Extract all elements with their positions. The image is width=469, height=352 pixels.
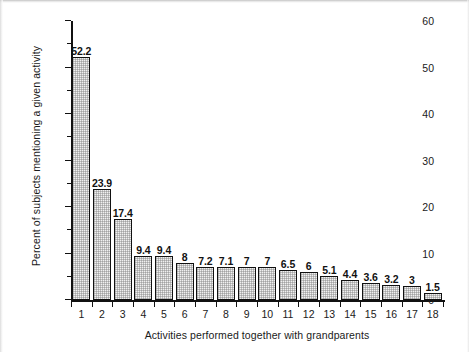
bar: 52.2: [72, 57, 90, 300]
bar: 6.5: [279, 270, 297, 300]
chart-figure: Percent of subjects mentioning a given a…: [0, 0, 469, 352]
bar: 8: [176, 263, 194, 300]
bar-value-label: 9.4: [157, 244, 171, 256]
y-axis-tick: [65, 206, 71, 207]
scan-edge-top: [0, 0, 469, 3]
bar: 5.1: [320, 276, 338, 300]
x-axis-tick-label: 7: [202, 308, 208, 320]
y-axis-tick-label: 60: [422, 15, 434, 27]
y-axis-tick: [65, 113, 71, 114]
x-axis-title: Activities performed together with grand…: [62, 329, 452, 341]
bar: 23.9: [93, 189, 111, 300]
x-axis-tick-label: 13: [323, 308, 335, 320]
y-axis-minor-tick: [67, 229, 71, 230]
x-axis-tick-label: 9: [244, 308, 250, 320]
x-axis-tick-label: 4: [140, 308, 146, 320]
bar: 4.4: [341, 280, 359, 300]
x-axis-tick: [298, 300, 299, 307]
bar-value-label: 1.5: [426, 281, 440, 293]
bar: 7: [258, 267, 276, 300]
bar: 1.5: [424, 293, 442, 300]
bar-value-label: 23.9: [92, 177, 112, 189]
x-axis-tick-label: 5: [161, 308, 167, 320]
x-axis-tick: [112, 300, 113, 307]
bar-value-label: 17.4: [113, 207, 133, 219]
x-axis-tick: [71, 300, 72, 307]
bar: 3.6: [362, 283, 380, 300]
bar: 3: [403, 286, 421, 300]
x-axis-tick: [154, 300, 155, 307]
x-axis-tick: [195, 300, 196, 307]
x-axis-tick: [319, 300, 320, 307]
y-axis-minor-tick: [67, 276, 71, 277]
y-axis-tick-label: 40: [422, 108, 434, 120]
bar: 7.1: [217, 267, 235, 300]
y-axis-tick-label: 30: [422, 155, 434, 167]
scan-edge-left: [0, 0, 3, 352]
x-axis-tick-label: 17: [406, 308, 418, 320]
y-axis-minor-tick: [67, 136, 71, 137]
bar: 6: [300, 272, 318, 300]
x-axis-tick-label: 1: [78, 308, 84, 320]
x-axis-tick: [381, 300, 382, 307]
x-axis-tick-label: 11: [283, 308, 294, 320]
bar-value-label: 8: [182, 251, 188, 263]
y-axis-minor-tick: [67, 90, 71, 91]
x-axis-tick: [278, 300, 279, 307]
y-axis-tick: [65, 253, 71, 254]
bar-value-label: 7.1: [219, 255, 233, 267]
bar-value-label: 3.6: [364, 271, 378, 283]
bar-value-label: 4.4: [343, 268, 357, 280]
x-axis-tick-label: 18: [427, 308, 439, 320]
x-axis-tick: [443, 300, 444, 307]
y-axis-tick-label: 20: [422, 201, 434, 213]
x-axis-tick-label: 8: [223, 308, 229, 320]
x-axis-tick-label: 3: [120, 308, 126, 320]
x-axis-tick: [216, 300, 217, 307]
y-axis-tick: [65, 20, 71, 21]
x-axis-tick: [236, 300, 237, 307]
bar-value-label: 6: [306, 260, 312, 272]
x-axis-tick-label: 6: [182, 308, 188, 320]
bar-value-label: 9.4: [136, 244, 150, 256]
y-axis-title: Percent of subjects mentioning a given a…: [30, 21, 42, 291]
x-axis-tick: [257, 300, 258, 307]
bar-value-label: 7: [264, 255, 270, 267]
bar: 7.2: [196, 267, 214, 300]
y-axis-tick: [65, 160, 71, 161]
x-axis-tick-label: 14: [344, 308, 356, 320]
y-axis-tick: [65, 67, 71, 68]
bar-value-label: 3: [409, 274, 415, 286]
bar: 17.4: [114, 219, 132, 300]
y-axis-minor-tick: [67, 43, 71, 44]
x-axis-tick: [174, 300, 175, 307]
x-axis-tick: [133, 300, 134, 307]
bar-value-label: 7: [244, 255, 250, 267]
x-axis-tick: [422, 300, 423, 307]
x-axis-tick-label: 2: [99, 308, 105, 320]
bar: 9.4: [155, 256, 173, 300]
y-axis-tick-label: 10: [422, 248, 434, 260]
x-axis-tick: [92, 300, 93, 307]
bar-value-label: 5.1: [322, 264, 336, 276]
plot-area: 010203040506052.2123.9217.439.449.45867.…: [71, 21, 443, 300]
bar: 7: [238, 267, 256, 300]
x-axis-tick-label: 15: [365, 308, 377, 320]
x-axis-tick: [360, 300, 361, 307]
bar-value-label: 6.5: [281, 258, 295, 270]
bar: 9.4: [134, 256, 152, 300]
y-axis-minor-tick: [67, 183, 71, 184]
x-axis-tick-label: 16: [385, 308, 397, 320]
y-axis-tick-label: 50: [422, 62, 434, 74]
x-axis-tick: [340, 300, 341, 307]
x-axis-line: [71, 300, 445, 302]
x-axis-tick-label: 10: [261, 308, 273, 320]
x-axis-tick-label: 12: [303, 308, 315, 320]
bar-value-label: 52.2: [71, 45, 91, 57]
x-axis-tick: [402, 300, 403, 307]
bar-value-label: 3.2: [384, 273, 398, 285]
bar: 3.2: [382, 285, 400, 300]
bar-value-label: 7.2: [198, 255, 212, 267]
